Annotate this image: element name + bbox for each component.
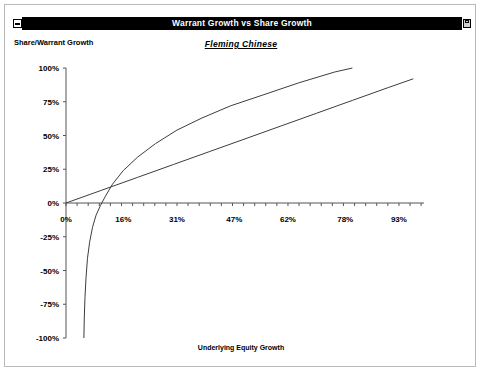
y-axis-tick-labels: 100%75%50%25%0%-25%-50%-75%-100% — [36, 64, 59, 343]
chart-axes — [66, 68, 424, 338]
chart-plot-area: 100%75%50%25%0%-25%-50%-75%-100% 0%16%31… — [0, 0, 482, 373]
y-tick-label: -100% — [36, 334, 59, 343]
y-tick-label: -75% — [40, 300, 59, 309]
y-tick-label: 75% — [43, 98, 59, 107]
x-tick-label: 62% — [280, 215, 296, 224]
y-tick-label: 50% — [43, 132, 59, 141]
y-tick-label: 0% — [47, 199, 59, 208]
x-tick-label: 0% — [60, 215, 72, 224]
y-tick-label: -50% — [40, 267, 59, 276]
x-tick-label: 31% — [169, 215, 185, 224]
y-tick-label: -25% — [40, 233, 59, 242]
y-tick-label: 25% — [43, 165, 59, 174]
x-tick-label: 78% — [337, 215, 353, 224]
x-axis-tick-labels: 0%16%31%47%62%78%93% — [60, 215, 407, 224]
x-tick-label: 47% — [226, 215, 242, 224]
scanned-page: Warrant Growth vs Share Growth Share/War… — [0, 0, 482, 373]
x-tick-label: 93% — [391, 215, 407, 224]
y-tick-label: 100% — [39, 64, 59, 73]
x-tick-label: 16% — [115, 215, 131, 224]
series-line — [66, 79, 413, 203]
